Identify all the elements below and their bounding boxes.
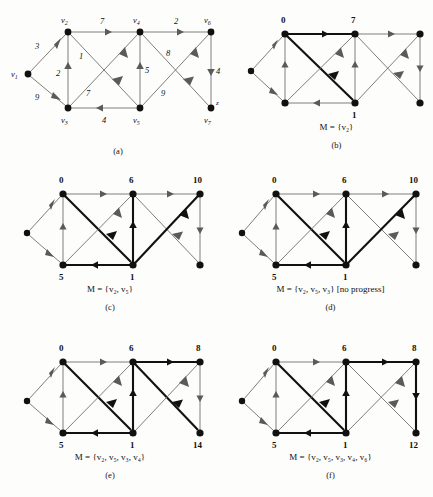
edge-v1-v3 [253,73,283,101]
arrowhead-v5-v4 [351,61,358,68]
node-v4 [342,190,349,197]
panel-c-edges [29,191,204,269]
node-v5 [342,261,349,268]
arrowhead-v4-v6 [382,358,389,365]
node-v3 [272,429,279,436]
arrowhead-v5-v3 [304,261,311,269]
distance-v6: 10 [193,175,203,185]
caption-c: (c) [4,302,216,312]
m-set-label-f: M = {v₂, v₅, v₃, v₄, v₆} [228,452,433,462]
node-v2 [59,190,66,197]
node-v3 [59,261,66,268]
arrowhead-v2-v4 [100,191,107,198]
vertex-label-v4: v4 [133,15,140,26]
arrowhead-v3-v4 [119,47,128,58]
distance-v3: 5 [59,272,64,282]
caption-e: (e) [4,470,216,480]
node-v5 [137,105,144,112]
arrowhead-v5-v3 [313,100,320,107]
arrowhead-v4-v6 [167,191,174,198]
panel-e-graph: 0 6 8 5 1 14 [4,338,216,450]
vertex-label-v7: v7 [204,115,212,126]
weight-v3-v4: 7 [86,88,91,98]
node-v5 [129,429,136,436]
node-v1 [239,230,245,236]
node-v7 [412,261,419,268]
node-v4 [342,358,349,365]
arrowhead-v5-v4 [129,221,137,228]
node-v3 [272,261,279,268]
arrowhead-v5-v6 [179,376,189,387]
distance-v2: 0 [281,15,286,25]
panel-f-graph: 0 6 8 5 1 12 [228,338,433,450]
arrowhead-v5-v4 [136,62,144,69]
node-v6 [196,190,203,197]
node-v1 [239,398,245,404]
arrowhead-v5-v3 [96,105,103,112]
arrowhead-v2-v4 [105,29,112,36]
arrowhead-v5-v3 [91,429,98,437]
arrowhead-v1-v3 [269,87,278,95]
caption-b: (b) [240,140,433,150]
vertex-label-v6: v6 [204,15,211,26]
distance-v4: 6 [342,175,347,185]
panel-e: 0 6 8 5 1 14 M = {v₂, v₅, v₃, v₄} (e) [4,338,216,480]
distance-v7: 12 [409,440,419,450]
panel-f: 0 6 8 5 1 12 M = {v₂, v₅, v₃, v₄, v₆} (f… [228,338,433,480]
distance-v6: 10 [409,175,419,185]
arrowhead-v4-v7 [172,232,183,241]
node-v3 [281,99,288,106]
arrowhead-v4-v6 [177,29,184,36]
vertex-label-v5: v5 [133,115,140,126]
panel-c: 0 6 10 5 1 M = {v₂, v₅} (c) [4,170,216,312]
panel-c-nodes [24,190,204,268]
node-v1 [248,68,254,74]
arrowhead-v2-v4 [100,359,107,366]
caption-f: (f) [228,470,433,480]
node-v7 [196,261,203,268]
distance-v7: 14 [193,440,203,450]
arrowhead-v2-v4 [313,359,320,366]
panel-a-nodes [25,29,215,112]
arrowhead-v4-v7 [388,400,399,409]
arrowhead-v1-v2 [54,38,61,49]
node-v3 [65,105,72,112]
node-v1 [24,398,30,404]
node-v1 [24,230,30,236]
node-v7 [412,429,419,436]
node-v2 [272,190,279,197]
edge-v1-v2 [29,196,61,231]
arrowhead-v3-v2 [59,223,66,230]
arrowhead-v5-v4 [342,221,350,228]
node-v5 [351,99,358,106]
arrowhead-v4-v7 [388,232,399,241]
panel-c-graph: 0 6 10 5 1 [4,170,216,282]
weight-v1-v3: 9 [35,92,40,102]
arrowhead-v4-v6 [382,191,389,198]
edge-v1-v2 [30,34,66,72]
panel-a-graph: v1 v2 v3 v4 v5 v6 v7 z 3 9 2 7 1 7 4 5 2… [0,4,236,132]
m-set-label-c: M = {v₂, v₅} [4,284,216,294]
node-v7 [196,429,203,436]
node-v7 [208,105,215,112]
edge-v1-v3 [29,403,61,431]
arrowhead-v3-v2 [272,223,279,230]
panel-b-graph: 0 7 1 [240,8,433,120]
panel-e-nodes [24,358,204,436]
distance-v3: 5 [272,440,277,450]
node-v4 [129,358,136,365]
vertex-label-v3: v3 [61,115,68,126]
weight-v5-v3: 4 [102,115,107,125]
distance-v5: 1 [352,110,357,120]
distance-v5: 1 [343,272,348,282]
node-v2 [65,29,72,36]
caption-a: (a) [0,146,236,156]
edge-v1-v2 [244,196,274,231]
arrowhead-v3-v2 [64,62,72,69]
arrowhead-v5-v3 [91,261,98,269]
edge-v1-v2 [29,364,61,399]
m-set-label-e: M = {v₂, v₅, v₃, v₄} [4,452,216,462]
distance-v6: 8 [196,343,201,353]
distance-v6: 8 [412,343,417,353]
weight-v5-v4: 5 [145,65,149,75]
